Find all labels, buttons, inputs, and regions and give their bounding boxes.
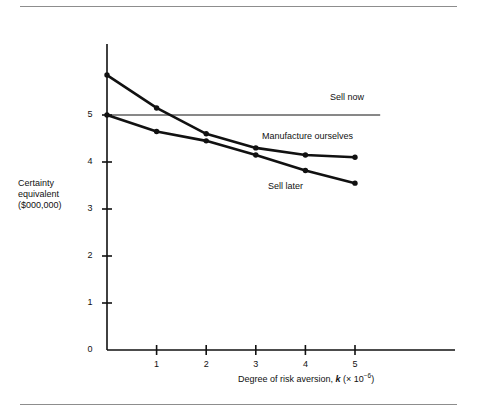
y-axis-tick-label: 5 bbox=[83, 109, 97, 119]
series-line-manufacture-ourselves bbox=[107, 75, 355, 157]
data-point-marker bbox=[253, 145, 258, 150]
series-label-sell-now: Sell now bbox=[330, 92, 364, 102]
data-point-marker bbox=[154, 105, 159, 110]
data-point-marker bbox=[104, 112, 109, 117]
data-point-marker bbox=[253, 152, 258, 157]
series-group bbox=[104, 72, 380, 185]
y-axis-tick-label: 1 bbox=[83, 297, 97, 307]
x-axis-tick-label: 5 bbox=[348, 359, 362, 369]
x-axis-tick-label: 2 bbox=[199, 359, 213, 369]
x-axis-tick-label: 4 bbox=[298, 359, 312, 369]
series-label-manufacture-ourselves: Manufacture ourselves bbox=[262, 131, 353, 141]
data-point-marker bbox=[352, 155, 357, 160]
series-label-sell-later: Sell later bbox=[268, 181, 303, 191]
data-point-marker bbox=[154, 129, 159, 134]
x-axis-title: Degree of risk aversion, k (× 10−6) bbox=[238, 374, 374, 385]
x-axis-tick-label: 3 bbox=[249, 359, 263, 369]
y-axis-tick-label: 4 bbox=[83, 156, 97, 166]
y-axis-tick-label: 2 bbox=[83, 250, 97, 260]
y-axis-tick-label: 3 bbox=[83, 203, 97, 213]
data-point-marker bbox=[352, 180, 357, 185]
series-line-sell-later bbox=[107, 115, 355, 183]
x-axis-title-close: ) bbox=[371, 374, 374, 384]
data-point-marker bbox=[204, 138, 209, 143]
data-point-marker bbox=[204, 131, 209, 136]
figure-container: Certainty equivalent ($000,000) Degree o… bbox=[0, 0, 477, 418]
x-axis-tick-label: 1 bbox=[150, 359, 164, 369]
x-axis-title-main: Degree of risk aversion, bbox=[238, 374, 336, 384]
x-axis-title-factor: (× 10 bbox=[341, 374, 364, 384]
data-point-marker bbox=[303, 152, 308, 157]
axes-group bbox=[107, 44, 455, 350]
data-point-marker bbox=[104, 72, 109, 77]
data-point-marker bbox=[303, 168, 308, 173]
y-axis-tick-label: 0 bbox=[83, 344, 97, 354]
